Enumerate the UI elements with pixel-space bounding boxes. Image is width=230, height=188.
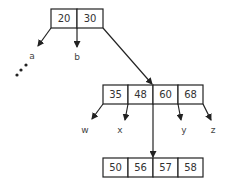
edge-to-y [178,104,181,120]
label-a: a [29,51,35,61]
middle-key-0: 35 [109,89,122,100]
ellipsis-icon [15,63,27,76]
bottom-key-0: 50 [109,162,122,173]
bottom-key-3: 58 [184,162,197,173]
middle-key-3: 68 [184,89,197,100]
edge-to-x [125,104,128,120]
root-node: 20 30 [51,9,103,28]
middle-key-2: 60 [159,89,172,100]
edge-to-w [92,104,103,119]
label-z: z [211,125,216,135]
edge-to-z [203,104,211,120]
bottom-key-2: 57 [159,162,172,173]
bottom-node: 50 56 57 58 [103,158,203,177]
bottom-key-1: 56 [134,162,147,173]
root-key-1: 30 [84,13,97,24]
label-x: x [117,125,123,135]
label-w: w [81,125,88,135]
label-y: y [181,125,187,135]
b-tree-diagram: 20 30 a b 35 48 60 68 w x y z 50 56 5 [0,0,230,188]
edge-to-middle-node [103,28,152,84]
middle-key-1: 48 [134,89,147,100]
edge-to-a [38,28,51,46]
label-b: b [74,52,80,62]
middle-node: 35 48 60 68 [103,85,203,104]
root-key-0: 20 [58,13,71,24]
